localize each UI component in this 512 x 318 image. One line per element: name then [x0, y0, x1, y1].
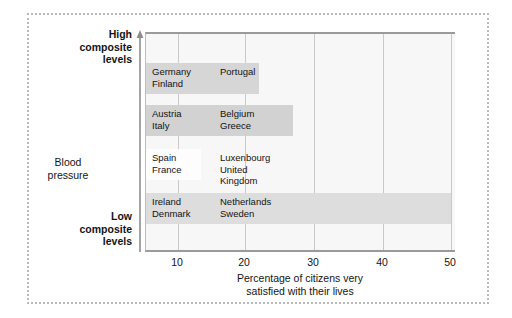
bar-row-high[interactable]: Germany Finland Portugal: [146, 63, 259, 94]
bar-countries-col1: Spain France: [152, 152, 182, 175]
bar-row-lower-middle[interactable]: Spain France Luxenbourg United Kingdom: [146, 149, 201, 180]
gridline-50: [451, 34, 452, 250]
chart-figure: High composite levels Blood pressure Low…: [0, 0, 512, 318]
bar-row-low[interactable]: Ireland Denmark Netherlands Sweden: [146, 193, 451, 224]
bar-row-upper-middle[interactable]: Austria Italy Belgium Greece: [146, 105, 293, 136]
x-tick-30: 30: [298, 256, 328, 268]
y-axis-arrow-icon: [136, 30, 145, 252]
x-axis-ticks: 10 20 30 40 50: [145, 256, 455, 272]
bar-countries-col1: Ireland Denmark: [152, 196, 191, 219]
x-tick-40: 40: [367, 256, 397, 268]
x-tick-20: 20: [229, 256, 259, 268]
bar-countries-col2: Portugal: [220, 66, 255, 78]
x-axis-title: Percentage of citizens very satisfied wi…: [145, 272, 455, 298]
bar-countries-col1: Germany Finland: [152, 66, 191, 89]
x-tick-50: 50: [435, 256, 465, 268]
plot-area: Germany Finland Portugal Austria Italy B…: [145, 32, 455, 252]
bar-countries-col1: Austria Italy: [152, 108, 182, 131]
y-axis-low-label: Low composite levels: [40, 210, 132, 248]
x-tick-10: 10: [162, 256, 192, 268]
y-axis-high-label: High composite levels: [40, 28, 132, 66]
y-axis-title: Blood pressure: [22, 156, 114, 181]
bar-countries-col2: Belgium Greece: [220, 108, 254, 131]
bar-countries-col2: Netherlands Sweden: [220, 196, 271, 219]
